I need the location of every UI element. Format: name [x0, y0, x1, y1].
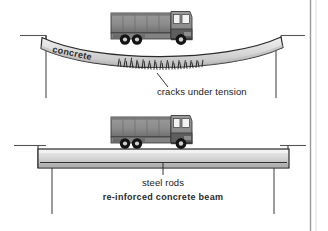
cracks-under-tension-label: cracks under tension — [157, 86, 247, 97]
diagram-figure: concrete cracks under tension — [0, 0, 328, 231]
reinforced-concrete-beam-label: re-inforced concrete beam — [103, 192, 224, 202]
diagram-canvas: concrete cracks under tension — [0, 0, 328, 231]
reinforced-beam — [38, 149, 289, 168]
steel-rods-label: steel rods — [142, 177, 184, 188]
